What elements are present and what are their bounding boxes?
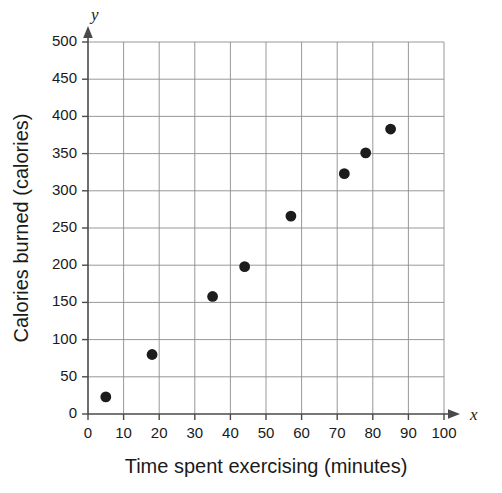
data-point	[360, 147, 371, 158]
y-tick-label: 100	[52, 330, 77, 347]
y-tick-label: 150	[52, 292, 77, 309]
x-tick-label: 100	[431, 424, 456, 441]
x-tick-label: 20	[151, 424, 168, 441]
y-axis-tickmarks	[82, 42, 88, 414]
x-tick-label: 70	[329, 424, 346, 441]
y-tick-label: 200	[52, 255, 77, 272]
y-axis-variable-letter: y	[89, 5, 99, 24]
x-axis-title: Time spent exercising (minutes)	[125, 455, 408, 477]
chart-canvas: 050100150200250300350400450500 010203040…	[0, 0, 502, 493]
y-axis-tick-labels: 050100150200250300350400450500	[52, 32, 77, 421]
y-tick-label: 0	[69, 404, 77, 421]
y-tick-label: 500	[52, 32, 77, 49]
x-axis-arrowhead	[448, 409, 460, 419]
x-axis-tickmarks	[88, 414, 444, 420]
data-point	[100, 391, 111, 402]
data-point	[207, 291, 218, 302]
y-tick-label: 300	[52, 181, 77, 198]
y-axis-title: Calories burned (calories)	[10, 114, 32, 343]
x-tick-label: 40	[222, 424, 239, 441]
y-tick-label: 450	[52, 69, 77, 86]
data-point	[286, 211, 297, 222]
scatter-plot-figure: 050100150200250300350400450500 010203040…	[0, 0, 502, 493]
x-tick-label: 30	[186, 424, 203, 441]
x-tick-label: 60	[293, 424, 310, 441]
data-point	[147, 349, 158, 360]
y-tick-label: 50	[60, 367, 77, 384]
y-axis-arrowhead	[83, 26, 93, 38]
data-point	[385, 124, 396, 135]
data-point	[239, 261, 250, 272]
x-tick-label: 90	[400, 424, 417, 441]
y-tick-label: 250	[52, 218, 77, 235]
x-tick-label: 50	[258, 424, 275, 441]
x-axis-tick-labels: 0102030405060708090100	[84, 424, 457, 441]
x-tick-label: 0	[84, 424, 92, 441]
y-tick-label: 350	[52, 144, 77, 161]
x-tick-label: 10	[115, 424, 132, 441]
y-tick-label: 400	[52, 106, 77, 123]
x-axis-variable-letter: x	[469, 405, 478, 424]
x-tick-label: 80	[364, 424, 381, 441]
data-point	[339, 168, 350, 179]
